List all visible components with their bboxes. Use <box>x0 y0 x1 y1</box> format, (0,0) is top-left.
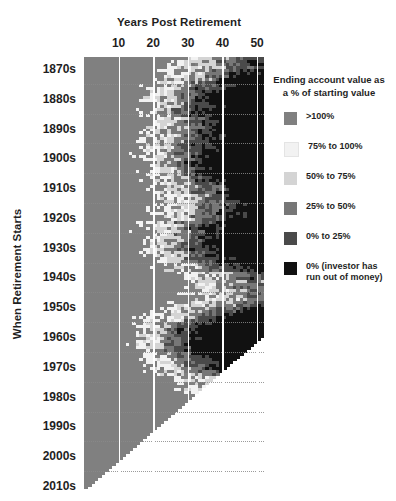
y-tick-1910s: 1910s <box>43 181 76 195</box>
y-tick-1900s: 1900s <box>43 151 76 165</box>
legend-row: 0% (investor has run out of money) <box>268 261 396 291</box>
vertical-gridline <box>119 57 120 489</box>
heatmap-cell <box>198 388 202 392</box>
legend-label: 50% to 75% <box>306 171 356 183</box>
x-tick-20: 20 <box>147 36 160 50</box>
heatmap-cell <box>202 385 206 389</box>
y-tick-1890s: 1890s <box>43 122 76 136</box>
y-tick-1990s: 1990s <box>43 419 76 433</box>
horizontal-gridline <box>84 233 264 235</box>
legend-label: 0% (investor has run out of money) <box>306 261 383 284</box>
y-tick-1940s: 1940s <box>43 270 76 284</box>
heatmap-cell <box>216 373 220 377</box>
legend-swatch <box>284 262 297 275</box>
legend-title: Ending account value as a % of starting … <box>268 74 390 100</box>
horizontal-gridline <box>84 292 264 294</box>
legend-label: 25% to 50% <box>306 201 356 213</box>
horizontal-gridline <box>84 114 264 116</box>
horizontal-gridline <box>84 322 264 324</box>
legend: Ending account value as a % of starting … <box>268 74 396 291</box>
vertical-gridline <box>222 57 223 489</box>
heatmap-cell <box>84 486 88 489</box>
horizontal-gridline <box>84 203 264 205</box>
legend-label: 75% to 100% <box>308 141 363 153</box>
y-tick-1930s: 1930s <box>43 241 76 255</box>
legend-row: 50% to 75% <box>268 171 396 201</box>
y-tick-1870s: 1870s <box>43 62 76 76</box>
y-tick-1950s: 1950s <box>43 300 76 314</box>
x-axis-title: Years Post Retirement <box>84 16 274 28</box>
horizontal-gridline <box>84 412 264 414</box>
x-tick-10: 10 <box>112 36 125 50</box>
heatmap-plot-area <box>84 57 264 489</box>
x-tick-40: 40 <box>216 36 229 50</box>
horizontal-gridline <box>84 143 264 145</box>
y-tick-2010s: 2010s <box>43 479 76 493</box>
legend-label: >100% <box>306 111 334 123</box>
y-tick-1880s: 1880s <box>43 92 76 106</box>
legend-swatch <box>284 232 297 245</box>
legend-row: 0% to 25% <box>268 231 396 261</box>
horizontal-gridline <box>84 382 264 384</box>
legend-items: >100%75% to 100%50% to 75%25% to 50%0% t… <box>268 111 396 291</box>
y-tick-1960s: 1960s <box>43 330 76 344</box>
legend-swatch <box>284 172 297 185</box>
x-tick-30: 30 <box>181 36 194 50</box>
horizontal-gridline <box>84 471 264 473</box>
y-tick-1970s: 1970s <box>43 360 76 374</box>
legend-title-line1: Ending account value as <box>273 74 384 85</box>
horizontal-gridline <box>84 263 264 265</box>
vertical-gridline <box>188 57 189 489</box>
chart-root: Years Post Retirement 1020304050 When Re… <box>0 0 396 501</box>
legend-swatch <box>284 142 299 157</box>
legend-label: 0% to 25% <box>306 231 351 243</box>
legend-row: >100% <box>268 111 396 141</box>
horizontal-gridline <box>84 441 264 443</box>
legend-row: 75% to 100% <box>268 141 396 171</box>
y-tick-1980s: 1980s <box>43 390 76 404</box>
vertical-gridline <box>257 57 258 489</box>
x-tick-50: 50 <box>250 36 263 50</box>
legend-swatch <box>284 112 297 125</box>
y-tick-2000s: 2000s <box>43 449 76 463</box>
legend-title-line2: a % of starting value <box>283 87 375 98</box>
horizontal-gridline <box>84 352 264 354</box>
vertical-gridline <box>153 57 154 489</box>
legend-row: 25% to 50% <box>268 201 396 231</box>
y-axis-tick-labels: 1870s1880s1890s1900s1910s1920s1930s1940s… <box>0 0 84 501</box>
horizontal-gridline <box>84 173 264 175</box>
y-tick-1920s: 1920s <box>43 211 76 225</box>
heatmap-cells <box>84 57 264 489</box>
legend-swatch <box>284 202 297 215</box>
horizontal-gridline <box>84 84 264 86</box>
